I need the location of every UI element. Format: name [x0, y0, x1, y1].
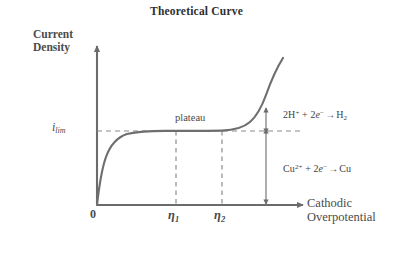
cu-plus: + — [303, 163, 314, 174]
eta2-subscript: 2 — [221, 214, 225, 224]
eta2-symbol: η — [214, 208, 221, 222]
theoretical-curve-figure: Theoretical Curve Current Density Cathod… — [0, 0, 393, 262]
eta1-subscript: 1 — [175, 214, 179, 224]
h2-coefficient: 2H — [283, 109, 295, 120]
y-axis-title: Current Density — [33, 28, 95, 54]
x-axis-title-line1: Cathodic — [307, 196, 352, 210]
h2-product-subscript: 2 — [344, 114, 348, 122]
eta2-tick-label: η2 — [214, 208, 225, 224]
eta1-tick-label: η1 — [168, 208, 179, 224]
hydrogen-evolution-reaction-label: 2H+ + 2e−→H2 — [283, 109, 347, 123]
copper-deposition-reaction-label: Cu2+ + 2e−→Cu — [283, 163, 351, 174]
x-axis-title: Cathodic Overpotential — [307, 196, 393, 224]
h2-reaction-arrow: → — [324, 109, 336, 120]
chart-title: Theoretical Curve — [0, 5, 393, 18]
cu-charge: 2+ — [295, 163, 303, 171]
cu-reaction-arrow: → — [327, 163, 339, 174]
h2-product: H — [336, 109, 343, 120]
origin-tick-label: 0 — [90, 208, 96, 221]
plateau-annotation-label: plateau — [175, 112, 205, 124]
y-axis-title-line1: Current — [33, 28, 73, 40]
cu-product: Cu — [339, 163, 351, 174]
eta1-symbol: η — [168, 208, 175, 222]
h2-plus: + — [299, 109, 310, 120]
y-axis-title-line2: Density — [33, 41, 70, 53]
cu-reactant: Cu — [283, 163, 295, 174]
x-axis-title-line2: Overpotential — [307, 210, 376, 224]
limiting-current-label: ilim — [52, 121, 66, 136]
ilim-subscript: lim — [55, 126, 65, 135]
